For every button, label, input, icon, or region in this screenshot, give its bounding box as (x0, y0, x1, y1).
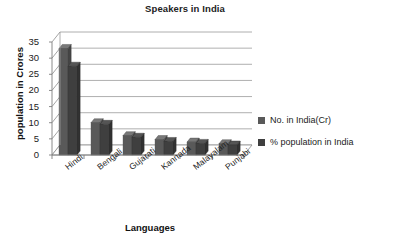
legend-label: % population in India (270, 137, 354, 147)
legend: No. in India(Cr)% population in India (258, 110, 398, 154)
x-tick-label: Hindi (63, 152, 85, 172)
legend-swatch-icon (258, 117, 265, 124)
x-tick-label: Gujarati (127, 145, 157, 172)
legend-item[interactable]: No. in India(Cr) (258, 110, 398, 130)
legend-item[interactable]: % population in India (258, 132, 398, 152)
legend-swatch-icon (258, 139, 265, 146)
x-tick-label: Bengali (95, 146, 124, 172)
x-tick-label: Kannada (159, 143, 193, 172)
x-tick-label: Punjabi (223, 146, 252, 172)
legend-label: No. in India(Cr) (270, 115, 331, 125)
bar-chart: Speakers in India population in Crores L… (0, 0, 403, 246)
